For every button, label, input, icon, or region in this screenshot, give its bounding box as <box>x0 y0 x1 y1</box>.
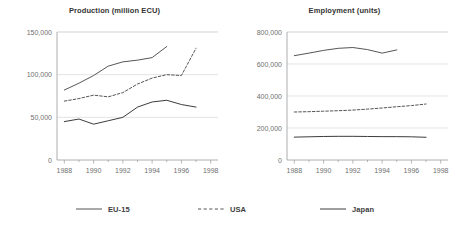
xtick-label: 1992 <box>345 167 361 174</box>
chart-legend: EU-15 USA Japan <box>0 196 459 231</box>
legend-swatch-eu-15 <box>76 205 102 213</box>
xtick-label: 1994 <box>374 167 390 174</box>
legend-label-usa: USA <box>230 205 246 214</box>
series-line-japan <box>294 136 426 137</box>
xtick-label: 1988 <box>57 167 73 174</box>
series-line-eu-15 <box>64 47 166 91</box>
xtick-label: 1996 <box>174 167 190 174</box>
legend-item-eu-15: EU-15 <box>76 202 130 216</box>
ytick-label: 0 <box>48 157 52 164</box>
legend-item-japan: Japan <box>320 202 374 216</box>
chart-figure: Production (million ECU) 050,000100,0001… <box>0 0 459 231</box>
ytick-label: 600,000 <box>257 61 282 68</box>
ytick-label: 800,000 <box>257 29 282 36</box>
xtick-label: 1996 <box>404 167 420 174</box>
series-line-usa <box>294 104 426 112</box>
series-line-eu-15 <box>294 48 396 56</box>
xtick-label: 1998 <box>433 167 449 174</box>
series-line-japan <box>64 100 196 124</box>
chart-panel-production: Production (million ECU) 050,000100,0001… <box>0 0 229 195</box>
xtick-label: 1998 <box>203 167 219 174</box>
xtick-label: 1990 <box>316 167 332 174</box>
xtick-label: 1994 <box>144 167 160 174</box>
ytick-label: 400,000 <box>257 93 282 100</box>
ytick-label: 150,000 <box>27 29 52 36</box>
xtick-label: 1992 <box>115 167 131 174</box>
xtick-label: 1990 <box>86 167 102 174</box>
legend-swatch-usa <box>198 205 224 213</box>
ytick-label: 200,000 <box>257 125 282 132</box>
legend-label-japan: Japan <box>352 205 374 214</box>
legend-item-usa: USA <box>198 202 246 216</box>
legend-swatch-japan <box>320 205 346 213</box>
ytick-label: 50,000 <box>31 114 53 121</box>
ytick-label: 100,000 <box>27 71 52 78</box>
legend-label-eu-15: EU-15 <box>108 205 130 214</box>
ytick-label: 0 <box>278 157 282 164</box>
chart-panel-employment: Employment (units) 0200,000400,000600,00… <box>230 0 459 195</box>
xtick-label: 1988 <box>287 167 303 174</box>
plot-area-production: 050,000100,000150,0001988199019921994199… <box>0 0 229 195</box>
plot-area-employment: 0200,000400,000600,000800,00019881990199… <box>230 0 459 195</box>
